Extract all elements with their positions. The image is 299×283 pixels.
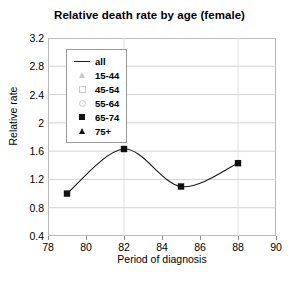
legend-item-45-54[interactable]: 45-54: [72, 82, 119, 96]
legend-label: 55-64: [92, 98, 119, 109]
chart-title: Relative death rate by age (female): [0, 9, 299, 21]
open-square-symbol-icon: [72, 86, 92, 93]
x-axis-tick: [162, 236, 163, 240]
plot-area: all 15-44 45-54 55-64 65-74 75+: [48, 38, 276, 236]
data-point-marker: [178, 183, 184, 189]
data-point-marker: [121, 146, 127, 152]
data-line-all: [67, 149, 238, 194]
legend-label: 45-54: [92, 84, 119, 95]
legend-item-75-plus[interactable]: 75+: [72, 124, 119, 138]
x-tick-label: 78: [28, 241, 68, 253]
chart-legend: all 15-44 45-54 55-64 65-74 75+: [66, 49, 127, 143]
legend-label: 75+: [92, 126, 111, 137]
x-tick-label: 80: [66, 241, 106, 253]
filled-triangle-symbol-icon: [72, 128, 92, 134]
legend-item-all[interactable]: all: [72, 54, 119, 68]
x-axis-title: Period of diagnosis: [48, 253, 276, 265]
x-tick-label: 84: [142, 241, 182, 253]
legend-label: 15-44: [92, 70, 119, 81]
open-diamond-symbol-icon: [72, 100, 92, 107]
x-tick-label: 86: [180, 241, 220, 253]
legend-item-55-64[interactable]: 55-64: [72, 96, 119, 110]
legend-item-65-74[interactable]: 65-74: [72, 110, 119, 124]
y-tick-label: 1.6: [0, 145, 44, 157]
legend-label: 65-74: [92, 112, 119, 123]
line-symbol-icon: [72, 61, 92, 62]
x-axis-tick: [238, 236, 239, 240]
y-tick-label: 2: [0, 117, 44, 129]
chart-figure: Relative death rate by age (female) Rela…: [0, 0, 299, 283]
data-point-marker: [235, 160, 241, 166]
data-point-marker: [64, 190, 70, 196]
x-tick-label: 82: [104, 241, 144, 253]
x-axis-tick: [200, 236, 201, 240]
x-axis-tick: [48, 236, 49, 240]
y-tick-label: 2.4: [0, 89, 44, 101]
y-tick-label: 0.8: [0, 202, 44, 214]
legend-label: all: [92, 56, 106, 67]
x-tick-label: 90: [256, 241, 296, 253]
filled-square-symbol-icon: [72, 114, 92, 120]
x-axis-tick: [276, 236, 277, 240]
legend-item-15-44[interactable]: 15-44: [72, 68, 119, 82]
x-axis-tick: [86, 236, 87, 240]
open-triangle-symbol-icon: [72, 72, 92, 78]
y-tick-label: 2.8: [0, 60, 44, 72]
x-axis-tick: [124, 236, 125, 240]
y-tick-label: 1.2: [0, 173, 44, 185]
x-tick-label: 88: [218, 241, 258, 253]
y-tick-label: 3.2: [0, 32, 44, 44]
